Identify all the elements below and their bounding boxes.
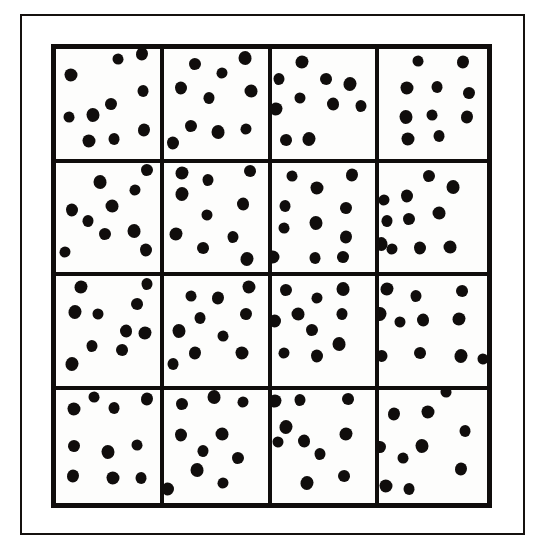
point-marker (138, 124, 150, 137)
point-marker (190, 463, 203, 477)
point-marker (129, 184, 140, 195)
point-marker (198, 445, 209, 457)
point-marker (92, 309, 103, 320)
quadrat-r4-c3 (272, 390, 380, 504)
point-marker (237, 198, 249, 211)
point-marker (109, 133, 120, 145)
point-marker (280, 134, 292, 146)
point-marker (99, 228, 111, 240)
quadrat-r2-c2 (164, 163, 272, 277)
point-marker (207, 390, 220, 404)
point-marker (189, 58, 201, 70)
point-marker (287, 170, 298, 181)
point-marker (237, 396, 248, 407)
point-marker (441, 390, 452, 398)
point-marker (388, 408, 400, 421)
point-marker (216, 68, 227, 79)
point-marker (127, 224, 140, 238)
point-marker (327, 97, 339, 110)
point-marker (379, 350, 388, 362)
point-marker (337, 282, 350, 296)
point-marker (235, 346, 248, 359)
point-marker (403, 213, 415, 225)
point-marker (306, 324, 318, 336)
point-marker (244, 84, 257, 97)
point-marker (136, 472, 147, 484)
point-marker (427, 109, 438, 120)
point-marker (416, 439, 429, 453)
point-marker (272, 314, 281, 327)
point-marker (66, 203, 78, 216)
point-marker (337, 251, 349, 263)
point-marker (432, 81, 443, 93)
point-marker (142, 278, 153, 290)
point-marker (140, 244, 152, 257)
point-marker (380, 283, 393, 296)
point-marker (452, 312, 465, 325)
quadrat-r1-c2 (164, 49, 272, 163)
point-marker (176, 167, 189, 180)
figure-root (0, 0, 541, 549)
point-marker (404, 483, 415, 495)
point-marker (211, 125, 224, 139)
point-marker (93, 175, 106, 189)
point-marker (340, 230, 352, 243)
point-marker (444, 240, 457, 253)
point-marker (310, 252, 321, 264)
point-marker (116, 344, 128, 356)
quadrat-r3-c1 (56, 276, 164, 390)
point-marker (189, 346, 201, 359)
point-marker (338, 470, 350, 482)
point-marker (355, 100, 366, 112)
point-marker (342, 393, 354, 405)
point-marker (272, 436, 283, 447)
point-marker (60, 247, 71, 258)
point-marker (107, 472, 120, 485)
point-marker (402, 132, 415, 145)
quadrat-r4-c1 (56, 390, 164, 504)
point-marker (455, 349, 468, 363)
point-marker (401, 190, 413, 203)
point-marker (457, 56, 469, 69)
point-marker (67, 402, 80, 415)
point-marker (240, 308, 252, 320)
point-marker (421, 406, 434, 419)
quadrat-grid (51, 44, 492, 508)
point-marker (401, 82, 414, 95)
point-marker (228, 231, 239, 243)
point-marker (273, 73, 284, 85)
quadrat-r3-c3 (272, 276, 380, 390)
point-marker (232, 452, 244, 464)
point-marker (379, 194, 389, 205)
point-marker (67, 469, 79, 482)
point-marker (131, 298, 143, 310)
point-marker (65, 357, 78, 371)
quadrat-r1-c1 (56, 49, 164, 163)
point-marker (164, 483, 174, 496)
point-marker (417, 313, 429, 326)
quadrat-r1-c4 (379, 49, 487, 163)
point-marker (387, 244, 398, 255)
point-marker (106, 200, 119, 213)
point-marker (477, 354, 487, 365)
point-marker (215, 427, 228, 440)
point-marker (272, 394, 282, 407)
point-marker (141, 392, 153, 405)
point-marker (141, 164, 153, 176)
point-marker (74, 280, 87, 293)
point-marker (394, 316, 405, 327)
point-marker (340, 202, 352, 214)
point-marker (298, 434, 310, 447)
point-marker (138, 85, 149, 97)
point-marker (455, 462, 467, 475)
point-marker (64, 111, 75, 122)
point-marker (240, 252, 253, 266)
point-marker (167, 137, 179, 150)
point-marker (272, 103, 283, 116)
point-marker (379, 441, 386, 453)
point-marker (83, 134, 96, 147)
quadrat-r3-c4 (379, 276, 487, 390)
point-marker (346, 168, 358, 181)
point-marker (312, 292, 323, 303)
point-marker (302, 132, 315, 146)
